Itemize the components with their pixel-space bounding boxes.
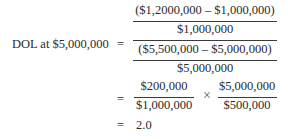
equals-sign: = [117, 118, 124, 133]
frac2-denominator: $500,000 [216, 98, 278, 113]
main-fraction-bar [133, 40, 277, 41]
multiply-sign: × [203, 88, 211, 104]
outer-numerator-numerator: ($1,2000,000 – $1,000,000) [132, 3, 278, 18]
result-value: 2.0 [136, 118, 152, 133]
outer-numerator-denominator: $1,000,000 [132, 22, 278, 37]
frac1-numerator: $200,000 [132, 79, 196, 94]
equals-sign: = [117, 37, 124, 52]
equals-sign: = [117, 92, 124, 107]
outer-denominator-numerator: ($5,500,000 – $5,000,000) [132, 42, 278, 57]
outer-denominator-denominator: $5,000,000 [132, 61, 278, 76]
frac2-numerator: $5,000,000 [216, 79, 278, 94]
formula-lhs: DOL at $5,000,000 [12, 37, 109, 52]
frac1-denominator: $1,000,000 [132, 98, 196, 113]
